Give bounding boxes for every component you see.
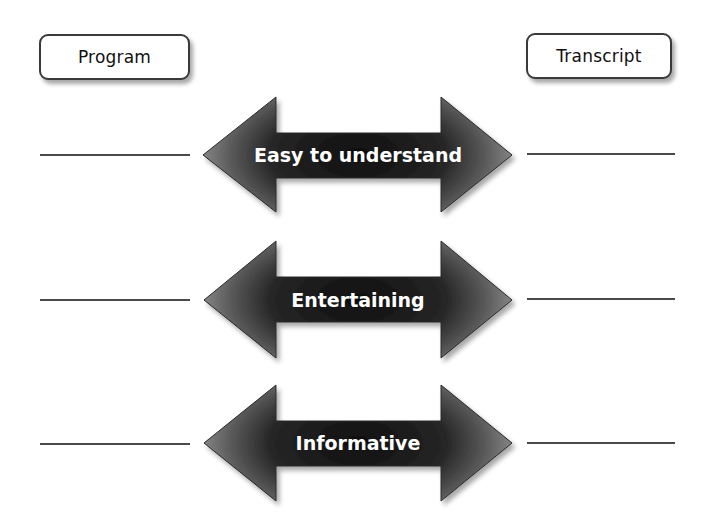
arrow-label-3: Informative bbox=[296, 432, 421, 454]
double-arrow-icon-3: Informative bbox=[0, 0, 713, 530]
